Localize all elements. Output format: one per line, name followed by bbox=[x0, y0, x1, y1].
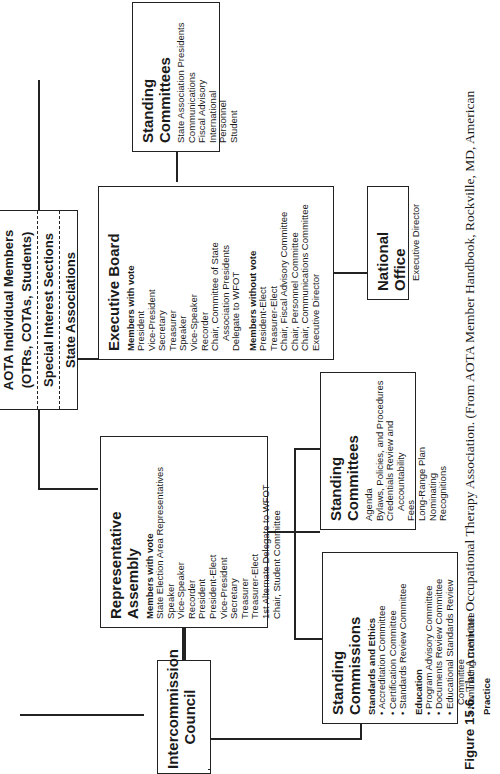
connector bbox=[294, 639, 322, 641]
committee-item: Agenda bbox=[364, 381, 375, 521]
members-line2: (OTRs, COTAs, Students) bbox=[19, 219, 34, 401]
member-item: President bbox=[136, 195, 147, 351]
executive-board-box: Executive Board Members with vote Presid… bbox=[98, 186, 334, 360]
standing-commissions-box: Standing Commissions Standards and Ethic… bbox=[322, 552, 458, 724]
member-item: State Election Area Representatives bbox=[155, 445, 166, 619]
connector bbox=[360, 724, 362, 740]
caption-label: Figure 15.6. bbox=[462, 695, 477, 770]
connector bbox=[176, 152, 178, 182]
council-line1: Intercommission bbox=[164, 665, 181, 769]
standing-committees-title: Standing Committees bbox=[139, 11, 173, 143]
commission-item: Standards Review Committee bbox=[398, 561, 409, 715]
connector bbox=[210, 769, 211, 771]
caption-text: The American Occupational Therapy Associ… bbox=[462, 91, 477, 692]
executive-board-title: Executive Board bbox=[105, 195, 122, 351]
standing-committees-board-box: Standing Committees State Association Pr… bbox=[132, 2, 220, 152]
commission-item: Educational Standards Review bbox=[445, 561, 456, 715]
member-item: President-Elect bbox=[258, 195, 269, 351]
standing-committees-title: Standing Committees bbox=[327, 381, 361, 521]
national-office-title: National Office bbox=[374, 195, 408, 291]
member-item: 1st Alternate Delegate to WFOT bbox=[261, 445, 272, 619]
representative-assembly-box: Representative Assembly Members with vot… bbox=[100, 436, 268, 628]
committee-item: Recognitions bbox=[438, 381, 449, 521]
standing-commissions-title: Standing Commissions bbox=[329, 561, 363, 715]
member-item: Vice-Speaker bbox=[189, 195, 200, 351]
representative-assembly-title: Representative Assembly bbox=[107, 445, 141, 619]
committee-item: State Association Presidents bbox=[176, 11, 187, 143]
state-associations: State Associations bbox=[63, 219, 78, 401]
connector bbox=[38, 489, 98, 491]
connector bbox=[294, 449, 320, 451]
committee-item: Long-Range Plan bbox=[417, 381, 428, 521]
member-item: President-Elect bbox=[208, 445, 219, 619]
special-interest-sections: Special Interest Sections bbox=[41, 219, 56, 401]
connector bbox=[20, 715, 144, 717]
member-item: Chair, Student Committee bbox=[272, 445, 283, 619]
aota-members-box: AOTA Individual Members (OTRs, COTAs, St… bbox=[0, 210, 78, 410]
commission-group-label: Practice bbox=[481, 561, 492, 715]
intercommission-council-box: Intercommission Council bbox=[157, 660, 211, 774]
standing-committees-assembly-box: Standing Committees Agenda Bylaws, Polic… bbox=[320, 372, 416, 530]
members-line1: AOTA Individual Members bbox=[1, 219, 16, 401]
connector bbox=[294, 450, 296, 640]
member-item: Delegate to WFOT bbox=[231, 195, 242, 351]
office-item: Executive Director bbox=[411, 195, 422, 291]
commission-item: Accreditation Committee bbox=[377, 561, 388, 715]
connector bbox=[184, 628, 186, 660]
figure-caption: Figure 15.6. The American Occupational T… bbox=[462, 0, 478, 770]
member-item: Executive Director bbox=[311, 195, 322, 351]
dashed-divider bbox=[59, 211, 60, 409]
connector bbox=[210, 739, 360, 741]
national-office-box: National Office Executive Director bbox=[367, 186, 409, 300]
council-line2: Council bbox=[181, 665, 198, 769]
connector bbox=[333, 273, 367, 275]
dashed-divider bbox=[37, 211, 38, 409]
committee-item: Student bbox=[229, 11, 240, 143]
